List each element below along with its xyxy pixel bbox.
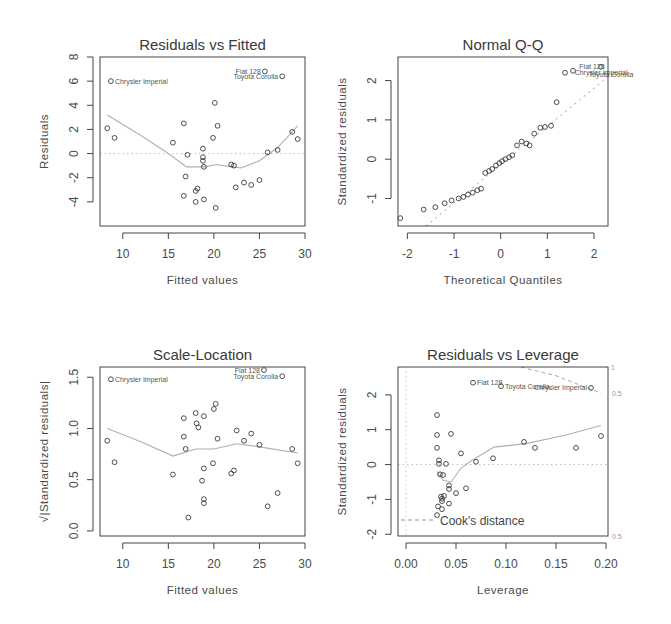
data-point [201, 197, 206, 202]
data-point [201, 158, 206, 163]
x-tick-label: 2 [591, 247, 598, 261]
data-point [449, 432, 454, 437]
x-tick-label: 0.00 [394, 557, 418, 571]
point-label: Fiat 128 [477, 379, 502, 386]
x-tick-label: 0.10 [494, 557, 518, 571]
x-axis: 0.000.050.100.150.20 [394, 543, 618, 571]
regression-diagnostic-plots: Residuals vs FittedChrysler ImperialFiat… [0, 0, 671, 624]
x-tick-label: 1 [544, 247, 551, 261]
point-label: Chrysler Imperial [115, 78, 168, 86]
data-point [435, 413, 440, 418]
data-point [186, 515, 191, 520]
data-point [201, 146, 206, 151]
y-tick-label: 6 [67, 77, 81, 84]
data-point [515, 143, 520, 148]
data-point [435, 445, 440, 450]
data-point [211, 407, 216, 412]
data-point [280, 374, 285, 379]
data-point [295, 137, 300, 142]
y-axis-label: √|Standardized residuals| [38, 381, 50, 523]
data-point [196, 425, 201, 430]
x-tick-label: 25 [253, 247, 267, 261]
x-tick-label: 0.05 [444, 557, 468, 571]
data-point [574, 445, 579, 450]
y-tick-label: 0 [67, 150, 81, 157]
x-tick-label: 30 [298, 247, 312, 261]
y-tick-label: 0 [365, 461, 379, 468]
x-axis: 1015202530 [116, 233, 312, 261]
x-axis: 1015202530 [116, 543, 312, 571]
data-point [181, 193, 186, 198]
data-point [435, 513, 440, 518]
data-point [435, 433, 440, 438]
y-tick-label: 1 [365, 426, 379, 433]
data-point [464, 486, 469, 491]
y-axis-label: Standardized residuals [336, 388, 348, 516]
data-point [449, 198, 454, 203]
data-point [200, 478, 205, 483]
x-tick-label: 30 [298, 557, 312, 571]
x-tick-label: 0 [497, 247, 504, 261]
x-axis: -2-1012 [402, 233, 598, 261]
data-point [471, 380, 476, 385]
data-point [466, 192, 471, 197]
x-tick-label: 20 [207, 557, 221, 571]
data-point [538, 125, 543, 130]
data-point [242, 180, 247, 185]
residuals-vs-leverage-panel: Residuals vs LeverageCook's distance10.5… [336, 346, 622, 596]
y-axis: 0.00.51.01.5 [67, 369, 93, 540]
y-tick-label: -2 [365, 529, 379, 540]
y-axis: -4-202468 [67, 53, 93, 207]
y-tick-label: 1.0 [67, 420, 81, 437]
data-point [290, 447, 295, 452]
data-point [234, 428, 239, 433]
data-point [295, 461, 300, 466]
data-point [491, 456, 496, 461]
data-point [470, 190, 475, 195]
chart-title: Residuals vs Leverage [427, 346, 579, 363]
data-point [112, 135, 117, 140]
data-point [454, 491, 459, 496]
data-point [437, 461, 442, 466]
data-point [519, 139, 524, 144]
data-point [563, 70, 568, 75]
data-point [549, 123, 554, 128]
data-point [398, 216, 403, 221]
data-point [442, 201, 447, 206]
data-point [201, 414, 206, 419]
data-point [109, 377, 114, 382]
y-tick-label: 2 [67, 126, 81, 133]
data-point [170, 140, 175, 145]
data-point [201, 466, 206, 471]
smoother-line [437, 426, 601, 482]
cooks-distance-legend-label: Cook's distance [440, 514, 525, 528]
y-tick-label: -1 [365, 494, 379, 505]
data-point [599, 434, 604, 439]
x-tick-label: 0.15 [544, 557, 568, 571]
data-point [433, 205, 438, 210]
normal-qq-panel: Normal Q-QFiat 128Toyota CorollaChrysler… [336, 36, 634, 286]
y-tick-label: -4 [67, 196, 81, 207]
point-label: Toyota Corolla [233, 373, 278, 381]
y-axis-label: Residuals [38, 114, 50, 169]
y-tick-label: -2 [67, 172, 81, 183]
cooks-contour-label: 0.5 [612, 390, 622, 397]
point-label: Toyota Corolla [233, 73, 278, 81]
data-point [275, 148, 280, 153]
x-tick-label: 15 [162, 557, 176, 571]
y-tick-label: 1 [365, 116, 379, 123]
data-point [554, 100, 559, 105]
y-axis: -2-1012 [365, 391, 391, 539]
data-point [242, 438, 247, 443]
data-point [215, 123, 220, 128]
data-point [211, 135, 216, 140]
x-axis-label: Theoretical Quantiles [443, 274, 562, 286]
y-tick-label: 0 [365, 156, 379, 163]
y-tick-label: 0.5 [67, 471, 81, 488]
y-tick-label: 4 [67, 102, 81, 109]
x-axis-label: Leverage [477, 584, 529, 596]
x-axis-label: Fitted values [167, 274, 239, 286]
data-point [215, 436, 220, 441]
x-axis-label: Fitted values [167, 584, 239, 596]
y-tick-label: 8 [67, 53, 81, 60]
